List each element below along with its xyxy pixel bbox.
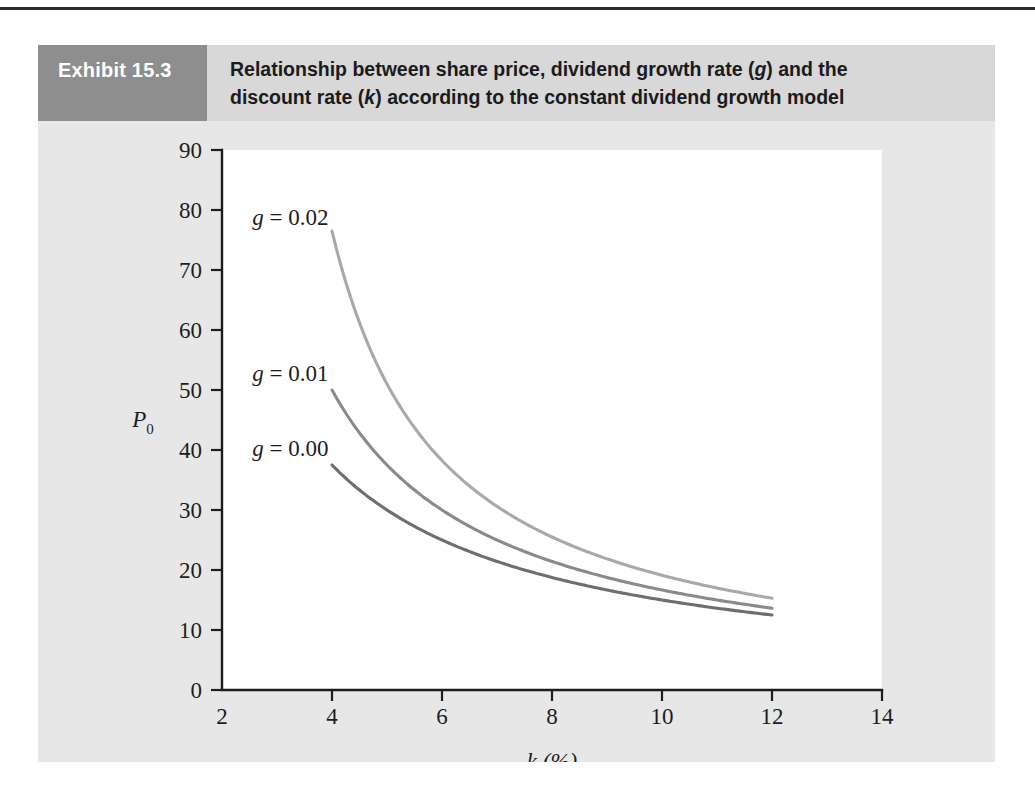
y-tick-label: 60 (179, 318, 202, 343)
chart-plot: 0102030405060708090 2468101214 P0 k (%) … (38, 121, 995, 762)
exhibit-title: Relationship between share price, divide… (230, 55, 970, 111)
x-tick-label: 2 (216, 704, 228, 729)
y-tick-label: 90 (179, 138, 202, 163)
y-tick-label: 50 (179, 378, 202, 403)
exhibit-title-line1-part1: Relationship between share price, divide… (230, 58, 754, 80)
y-tick-label: 20 (179, 558, 202, 583)
exhibit-title-symbol-k: k (364, 86, 375, 108)
y-axis-title: P0 (131, 407, 154, 437)
x-tick-label: 12 (761, 704, 784, 729)
exhibit-header-bar: Exhibit 15.3 Relationship between share … (38, 45, 995, 121)
y-tick-label: 0 (191, 678, 203, 703)
y-axis-ticks: 0102030405060708090 (179, 138, 222, 703)
y-tick-label: 10 (179, 618, 202, 643)
x-axis-title: k (%) (527, 749, 577, 762)
series-label: g = 0.02 (252, 205, 328, 230)
x-tick-label: 6 (436, 704, 448, 729)
y-tick-label: 30 (179, 498, 202, 523)
series-label: g = 0.01 (252, 361, 328, 386)
y-tick-label: 40 (179, 438, 202, 463)
exhibit-number-box: Exhibit 15.3 (38, 45, 207, 121)
exhibit-title-line2-part2: ) according to the constant dividend gro… (375, 86, 844, 108)
exhibit-number-label: Exhibit 15.3 (58, 59, 172, 82)
x-tick-label: 8 (546, 704, 558, 729)
y-tick-label: 80 (179, 198, 202, 223)
exhibit-title-symbol-g: g (754, 58, 766, 80)
exhibit-title-line2-part1: discount rate ( (230, 86, 364, 108)
plot-background (222, 150, 882, 690)
x-tick-label: 4 (326, 704, 338, 729)
series-label: g = 0.00 (252, 436, 328, 461)
x-axis-ticks: 2468101214 (216, 690, 894, 729)
exhibit-title-line1-part2: ) and the (766, 58, 847, 80)
x-tick-label: 10 (651, 704, 674, 729)
exhibit-panel: Exhibit 15.3 Relationship between share … (38, 45, 995, 762)
x-tick-label: 14 (871, 704, 895, 729)
page-top-rule (0, 7, 1035, 10)
y-tick-label: 70 (179, 258, 202, 283)
